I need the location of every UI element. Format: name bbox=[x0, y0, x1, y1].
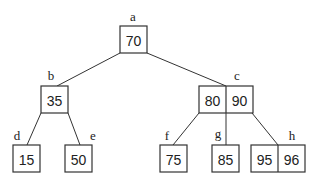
edge-c-h bbox=[252, 113, 278, 145]
node-key: 96 bbox=[284, 152, 300, 168]
node-label: g bbox=[215, 126, 222, 141]
node-label: a bbox=[130, 9, 136, 24]
node-label: c bbox=[234, 68, 240, 83]
edge-b-e bbox=[68, 113, 80, 145]
node-key: 85 bbox=[218, 152, 234, 168]
edge-c-f bbox=[173, 113, 199, 145]
node-key: 90 bbox=[232, 93, 248, 109]
node-key: 15 bbox=[19, 152, 35, 168]
node-key: 50 bbox=[71, 152, 87, 168]
node-label: h bbox=[289, 128, 296, 143]
node-h: 9596h bbox=[251, 128, 305, 172]
node-key: 75 bbox=[166, 152, 182, 168]
node-c: 8090c bbox=[199, 68, 253, 113]
b-tree-diagram: 70a35b8090c15d50e75f85g9596h bbox=[0, 0, 313, 178]
node-label: f bbox=[165, 128, 170, 143]
edge-a-b bbox=[57, 53, 120, 86]
node-label: e bbox=[90, 128, 96, 143]
node-key: 70 bbox=[126, 33, 142, 49]
node-key: 35 bbox=[47, 93, 63, 109]
node-label: b bbox=[48, 68, 55, 83]
node-key: 80 bbox=[205, 93, 221, 109]
node-f: 75f bbox=[160, 128, 187, 172]
node-b: 35b bbox=[41, 68, 68, 113]
edge-b-d bbox=[27, 113, 41, 145]
tree-nodes: 70a35b8090c15d50e75f85g9596h bbox=[13, 9, 305, 172]
node-key: 95 bbox=[257, 152, 273, 168]
node-e: 50e bbox=[65, 128, 96, 172]
node-label: d bbox=[14, 128, 21, 143]
node-d: 15d bbox=[13, 128, 40, 172]
edge-a-c bbox=[147, 53, 226, 86]
node-a: 70a bbox=[120, 9, 147, 53]
